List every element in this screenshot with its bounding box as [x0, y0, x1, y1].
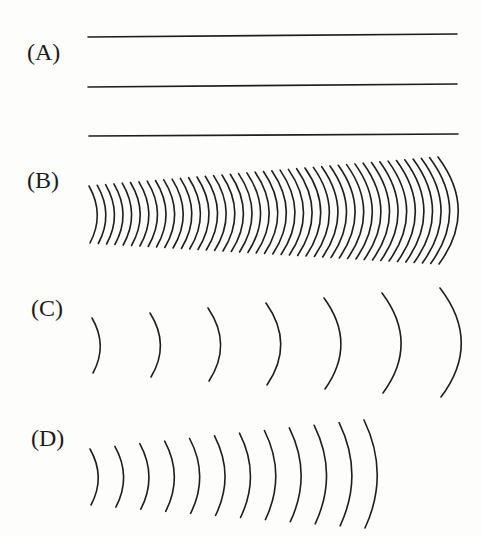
wavefront-arc [140, 444, 149, 510]
wavefront-arc [215, 436, 226, 516]
wavefront-arc [240, 433, 251, 517]
wavefront-arc [114, 184, 123, 245]
wavefront-arc [89, 186, 97, 243]
sparse-wavefront-arcs [92, 288, 461, 397]
wavefront-diagram: (A) (B) (C) (D) [0, 0, 481, 536]
dense-wavefront-arcs [89, 157, 458, 264]
wavefront-arc [205, 176, 217, 250]
panel-c: (C) [31, 288, 461, 397]
panel-a-label: (A) [27, 39, 60, 65]
wavefront-arc [324, 298, 341, 389]
wavefront-arc [214, 176, 227, 251]
wavefront-arc [280, 170, 295, 254]
wavefront-line [89, 134, 458, 136]
wavefront-line [88, 84, 457, 87]
wavefront-arc [189, 178, 201, 249]
panel-b-label: (B) [27, 167, 59, 193]
wavefront-arc [339, 423, 352, 526]
wavefront-arc [172, 179, 183, 248]
medium-wavefront-arcs [90, 420, 377, 528]
wavefront-arc [208, 308, 221, 381]
wavefront-arc [382, 293, 401, 393]
panel-a: (A) [27, 34, 458, 136]
wavefront-arc [255, 172, 269, 253]
wavefront-arc [266, 303, 281, 385]
wavefront-arc [247, 173, 261, 253]
wavefront-arc [440, 288, 461, 397]
wavefront-arc [289, 428, 301, 522]
wavefront-arc [92, 318, 100, 373]
wavefront-line [88, 34, 457, 37]
wavefront-arc [190, 439, 200, 514]
wavefront-arc [180, 178, 191, 248]
panel-b: (B) [27, 157, 458, 264]
wavefront-arc [106, 185, 115, 244]
wavefront-arc [364, 420, 377, 528]
wavefront-arc [239, 174, 252, 252]
wavefront-arc [165, 441, 175, 511]
wavefront-arc [264, 431, 275, 520]
wavefront-arc [222, 175, 235, 251]
wavefront-arc [90, 449, 98, 505]
plane-wavefront-lines [88, 34, 458, 136]
wavefront-arc [288, 169, 303, 255]
wavefront-arc [230, 174, 243, 251]
wavefront-arc [272, 171, 287, 254]
wavefront-arc [197, 177, 209, 250]
wavefront-arc [150, 313, 160, 377]
wavefront-arc [314, 425, 326, 524]
panel-d-label: (D) [31, 425, 64, 451]
panel-d: (D) [31, 420, 377, 528]
wavefront-arc [297, 169, 312, 256]
wavefront-arc [264, 172, 278, 254]
wavefront-arc [115, 446, 124, 507]
wavefront-arc [405, 160, 424, 262]
wavefront-arc [97, 185, 106, 243]
panel-c-label: (C) [31, 295, 63, 321]
